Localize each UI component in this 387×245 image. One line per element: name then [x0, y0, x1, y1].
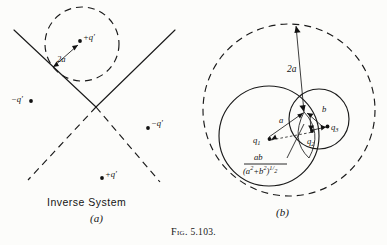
figure-caption: Fig. 5.103.: [0, 226, 387, 237]
panel-b-drawing: 2a a b: [191, 0, 387, 245]
charge-q2-label: q2: [307, 136, 315, 147]
figure-caption-prefix: Fig.: [171, 226, 188, 237]
charge-q1-label: q1: [253, 135, 261, 146]
formula-leader-line: [287, 124, 304, 158]
formula-ab-over-root: ab (a2+b2)1/2: [243, 152, 287, 176]
panel-a-title: Inverse System: [47, 196, 126, 208]
charge-top-label: +q′: [83, 32, 95, 42]
charge-bottom-dot: [100, 176, 104, 180]
arrow-to-q3: [313, 125, 326, 131]
panel-a-drawing: 2a +q′ −q′ −q′ +q′: [0, 0, 196, 245]
panel-a-inverse-system: 2a +q′ −q′ −q′ +q′ Inverse System (a): [0, 0, 196, 245]
dashed-circle: [45, 7, 119, 81]
charge-q3-label: q3: [331, 122, 339, 133]
label-2a-diameter: 2a: [287, 64, 297, 74]
outer-dashed-circle: [203, 24, 375, 196]
charge-q1-dot: [268, 137, 272, 141]
charge-top-dot: [78, 39, 82, 43]
line-sw-arm: [28, 107, 96, 180]
charge-left-dot: [29, 99, 33, 103]
panel-b-letter: (b): [276, 206, 289, 218]
label-2a: 2a: [57, 54, 66, 64]
formula-denominator: (a2+b2)1/2: [243, 164, 277, 176]
formula-numerator: ab: [254, 152, 263, 162]
charge-q3-dot: [326, 125, 330, 129]
charge-left-label: −q′: [11, 94, 23, 104]
panel-a-letter: (a): [90, 212, 103, 224]
panel-b-sphere-system: 2a a b: [191, 0, 387, 245]
charge-bottom-label: +q′: [105, 169, 117, 179]
charge-right-label: −q′: [151, 118, 163, 128]
charge-q2-dot: [310, 129, 314, 133]
line-ne-arm: [96, 30, 175, 107]
figure-caption-number: 5.103.: [190, 227, 216, 237]
figure-5-103: 2a +q′ −q′ −q′ +q′ Inverse System (a): [0, 0, 387, 245]
charge-right-dot: [146, 126, 150, 130]
label-b: b: [322, 104, 327, 114]
label-a: a: [279, 115, 283, 125]
